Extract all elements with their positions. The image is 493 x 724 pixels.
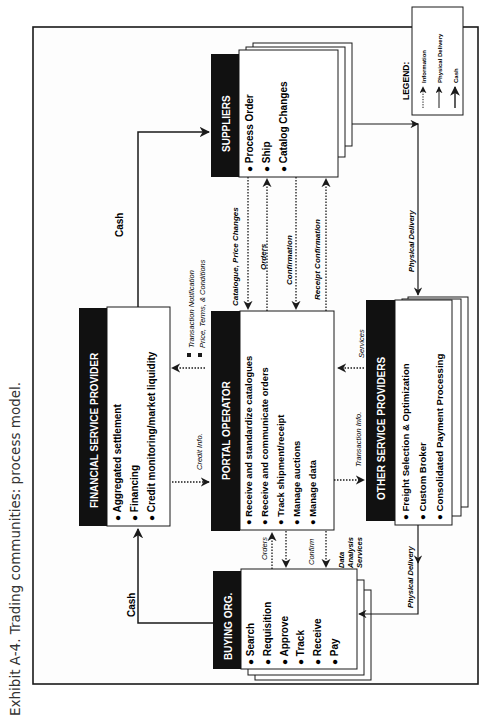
portal-item-5: ● Manage data: [307, 459, 318, 525]
orders-buyer-label: Orders: [260, 537, 269, 560]
suppliers-item-3: ● Catalog Changes: [278, 81, 289, 172]
data-analysis-label-3: Services: [355, 537, 364, 568]
financial-item-2: ● Financing: [129, 465, 140, 521]
other-service-providers-box: OTHER SERVICE PROVIDERS ● Freight Select…: [366, 297, 468, 525]
transaction-notification-bullet: [187, 353, 191, 357]
portal-item-2: ● Receive and communicate orders: [259, 367, 270, 525]
buying-title: BUYING ORG.: [223, 593, 234, 660]
other-item-2: ● Custom Broker: [417, 442, 428, 520]
buying-item-3: ● Approve: [279, 616, 290, 665]
financial-service-provider-box: FINANCIAL SERVICE PROVIDER ● Aggregated …: [79, 307, 170, 526]
portal-item-3: ● Track shipment/receipt: [275, 415, 286, 525]
figure-caption: Exhibit A-4. Trading communities: proces…: [7, 382, 23, 716]
services-label: Services: [357, 329, 366, 358]
info-receipt-confirmation-label: Receipt Confirmation: [313, 219, 322, 300]
legend-title: LEGEND:: [401, 62, 411, 100]
legend-information-label: Information: [421, 50, 427, 83]
credit-info-label: Credit Info.: [195, 433, 204, 470]
info-catalogue-label: Catalogue, Price Changes: [231, 207, 240, 306]
buying-item-4: ● Track: [295, 630, 306, 665]
suppliers-title: SUPPLIERS: [221, 95, 232, 152]
portal-body: [240, 311, 334, 530]
physical-delivery-label-top: Physical Delivery: [407, 209, 416, 272]
info-orders-supplier-label: Orders: [259, 243, 268, 270]
buying-item-6: ● Pay: [329, 638, 340, 665]
suppliers-item-2: ● Ship: [261, 142, 272, 173]
portal-operator-box: PORTAL OPERATOR ● Receive and standardiz…: [211, 311, 334, 531]
financial-item-3: ● Credit monitoring/market liquidity: [146, 351, 157, 521]
data-analysis-label-1: Data: [337, 552, 346, 568]
transaction-notification-label: Transaction Notification: [187, 270, 196, 348]
cash-label-bottom: Cash: [126, 593, 137, 617]
confirm-buyer-label: Confirm: [307, 539, 316, 565]
data-analysis-label-2: Analysis: [346, 537, 355, 569]
cash-label-top: Cash: [114, 213, 125, 237]
portal-item-1: ● Receive and standardize catalogues: [243, 356, 254, 525]
process-model-diagram: Exhibit A-4. Trading communities: proces…: [0, 0, 493, 724]
legend-physical-label: Physical Delivery: [437, 33, 443, 83]
transaction-info-label: Transaction Info.: [354, 412, 363, 467]
buying-org-box: BUYING ORG. ● Search ● Requisition ● App…: [213, 569, 371, 680]
buying-item-5: ● Receive: [312, 618, 323, 665]
other-item-3: ● Consolidated Payment Processing: [434, 354, 445, 520]
financial-title: FINANCIAL SERVICE PROVIDER: [89, 352, 100, 508]
portal-item-4: ● Manage auctions: [291, 441, 302, 525]
suppliers-box: SUPPLIERS ● Process Order ● Ship ● Catal…: [211, 43, 352, 177]
legend-cash-label: Cash: [453, 68, 459, 83]
financial-item-1: ● Aggregated settlement: [112, 404, 123, 521]
buying-item-2: ● Requisition: [262, 602, 273, 665]
other-title: OTHER SERVICE PROVIDERS: [376, 356, 387, 500]
physical-delivery-label-bottom: Physical Delivery: [406, 545, 415, 608]
other-item-1: ● Freight Selection & Optimization: [400, 363, 411, 520]
price-terms-label: Price, Terms, & Conditions: [198, 259, 207, 348]
buying-item-1: ● Search: [245, 623, 256, 665]
suppliers-item-1: ● Process Order: [244, 94, 255, 172]
price-terms-bullet: [198, 353, 202, 357]
portal-title: PORTAL OPERATOR: [221, 381, 232, 480]
info-confirmation-label: Confirmation: [285, 235, 294, 285]
